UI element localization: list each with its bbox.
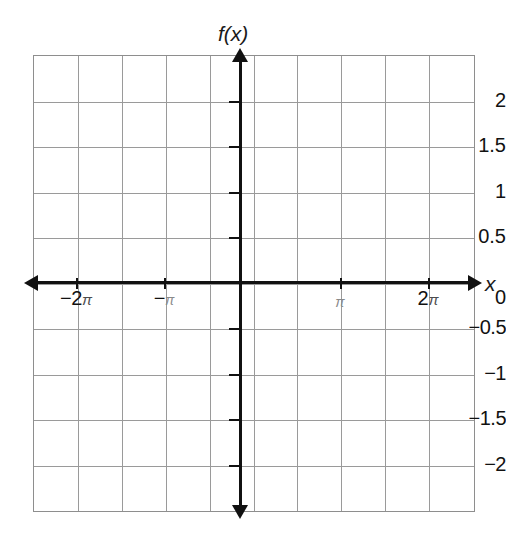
- y-tick-label: −1: [301, 363, 506, 383]
- y-axis-arrow-up-icon: [232, 48, 248, 62]
- y-tick-label: 2: [301, 90, 506, 110]
- y-tick-mark: [229, 237, 240, 239]
- y-tick-mark: [229, 465, 240, 467]
- coordinate-plane-figure: 2 1.5 1 0.5 0 −0.5 −1 −1.5 −2 −2π −π π 2…: [0, 0, 506, 535]
- x-axis-title: x: [485, 272, 496, 296]
- x-tick-label: 2π: [398, 288, 458, 308]
- x-axis-arrow-left-icon: [24, 275, 38, 291]
- y-axis: [239, 58, 242, 510]
- y-tick-label: 1.5: [301, 135, 506, 155]
- y-tick-mark: [229, 328, 240, 330]
- y-tick-label: −0.5: [301, 317, 506, 337]
- y-tick-label: −1.5: [301, 408, 506, 428]
- x-axis: [36, 281, 472, 284]
- x-tick-label: π: [310, 290, 370, 310]
- y-tick-mark: [229, 192, 240, 194]
- y-tick-mark: [229, 146, 240, 148]
- x-tick-label: −2π: [46, 288, 106, 308]
- y-tick-label: 1: [301, 181, 506, 201]
- y-axis-title: f(x): [218, 22, 248, 46]
- y-tick-mark: [229, 419, 240, 421]
- y-tick-label: −2: [301, 454, 506, 474]
- y-axis-arrow-down-icon: [232, 505, 248, 519]
- y-tick-label: 0.5: [301, 226, 506, 246]
- y-tick-mark: [229, 374, 240, 376]
- x-tick-label: −π: [134, 288, 194, 308]
- y-tick-mark: [229, 101, 240, 103]
